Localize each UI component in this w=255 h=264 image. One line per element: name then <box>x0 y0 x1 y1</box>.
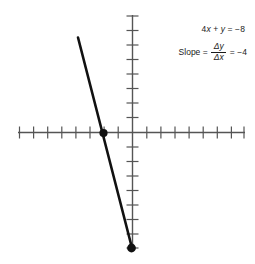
slope-label: Slope <box>179 47 201 57</box>
slope-second-equals-sign: = <box>230 47 235 57</box>
equation-equals-sign: = <box>225 24 235 34</box>
slope-denominator: Δx <box>212 53 226 62</box>
plotted-line <box>78 38 132 249</box>
equation-annotations: 4x + y = −8 Slope = Δy Δx = −4 <box>119 24 247 62</box>
slope-value: −4 <box>237 47 247 57</box>
x-intercept-point <box>99 129 107 137</box>
slope-numerator: Δy <box>212 42 226 51</box>
slope-text: Slope = Δy Δx = −4 <box>179 42 247 62</box>
graph-figure: 4x + y = −8 Slope = Δy Δx = −4 <box>0 0 255 264</box>
equation-plus-operator: + <box>211 24 221 34</box>
equation-text: 4x + y = −8 <box>119 24 247 34</box>
y-intercept-point <box>127 244 136 253</box>
slope-fraction: Δy Δx <box>211 42 226 62</box>
equation-right-hand-side: −8 <box>235 24 245 34</box>
slope-equals-sign: = <box>203 47 208 57</box>
